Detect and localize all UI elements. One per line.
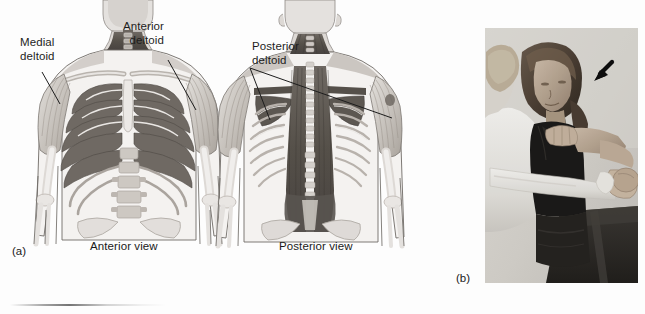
caption-posterior-view: Posterior view [279,240,353,252]
posterior-view-illustration [216,0,404,246]
caption-anterior-view: Anterior view [90,240,158,252]
panel-letter-a: (a) [12,245,26,257]
label-posterior-deltoid: Posterior deltoid [252,40,299,67]
panel-a-anatomy-illustration: Medial deltoid Anterior deltoid Posterio… [0,0,440,270]
label-anterior-deltoid: Anterior deltoid [88,20,164,47]
left-arm-bones-anterior [34,150,58,244]
figure-root: Medial deltoid Anterior deltoid Posterio… [0,0,645,314]
label-medial-deltoid: Medial deltoid [20,36,55,63]
panel-letter-b: (b) [456,272,470,284]
clinical-photograph-svg [450,0,645,300]
scan-artifact-line [10,304,166,306]
anatomy-illustration-svg [0,0,440,270]
panel-b-photograph: (b) [450,0,645,300]
